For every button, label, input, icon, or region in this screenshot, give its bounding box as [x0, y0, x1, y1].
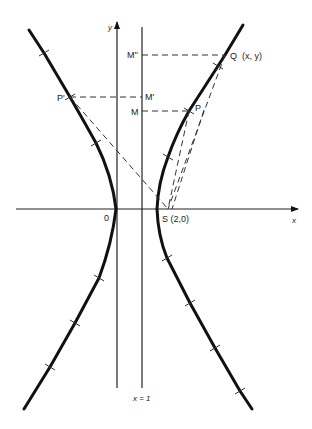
p-prime-label: P' [57, 93, 65, 103]
y-axis-label: y [107, 23, 113, 32]
dashed-q-to-p-extension [172, 110, 204, 209]
m-label: M [131, 107, 139, 117]
q-label: Q (x, y) [230, 51, 262, 61]
focus-label: S (2,0) [162, 214, 189, 224]
m-prime-label: M' [145, 92, 154, 102]
construction-lines [70, 55, 225, 209]
dashed-p-prime-to-s [70, 97, 168, 209]
hyperbola-diagram: x y 0 x = 1 Q (x, y) P P' M M' [0, 0, 312, 429]
x-axis-label: x [291, 216, 297, 225]
origin-label: 0 [104, 213, 109, 223]
m-double-prime-label: M'' [127, 50, 138, 60]
p-label: P [195, 103, 201, 113]
directrix-label: x = 1 [132, 394, 151, 403]
hyperbola-left-branch [24, 30, 116, 409]
